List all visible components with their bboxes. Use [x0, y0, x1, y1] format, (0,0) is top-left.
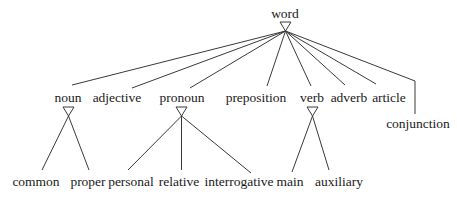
- node-relative: relative: [159, 174, 199, 189]
- edge-pronoun-personal: [128, 116, 182, 170]
- edge-word-article: [286, 31, 377, 84]
- edge-noun-proper: [69, 116, 90, 170]
- edge-word-adjective: [132, 31, 286, 88]
- triangle-icon-verb: [307, 107, 318, 116]
- node-adjective: adjective: [93, 90, 142, 105]
- node-main: main: [277, 174, 304, 189]
- edge-verb-auxiliary: [313, 116, 330, 170]
- node-adverb: adverb: [331, 90, 368, 105]
- node-auxiliary: auxiliary: [315, 174, 363, 189]
- triangle-icon-noun: [63, 107, 74, 116]
- node-proper: proper: [70, 174, 106, 189]
- node-common: common: [12, 174, 59, 189]
- tree-diagram: word noun adjective pronoun preposition …: [0, 0, 457, 198]
- edge-pronoun-interrogative: [182, 116, 252, 173]
- triangle-icon-root: [280, 22, 291, 31]
- node-article: article: [372, 90, 406, 105]
- node-pronoun: pronoun: [160, 90, 205, 105]
- edge-word-adverb: [286, 31, 346, 85]
- edge-verb-main: [292, 116, 313, 172]
- node-conjunction: conjunction: [386, 116, 450, 131]
- edge-word-noun: [72, 31, 286, 85]
- triangle-icon-pronoun: [176, 107, 187, 116]
- node-personal: personal: [108, 174, 154, 189]
- node-word: word: [271, 6, 299, 21]
- node-noun: noun: [55, 90, 82, 105]
- edge-word-preposition: [267, 31, 286, 86]
- edge-word-pronoun: [190, 31, 286, 88]
- node-preposition: preposition: [226, 90, 287, 105]
- node-interrogative: interrogative: [205, 174, 274, 189]
- edge-noun-common: [42, 116, 69, 170]
- node-verb: verb: [300, 90, 324, 105]
